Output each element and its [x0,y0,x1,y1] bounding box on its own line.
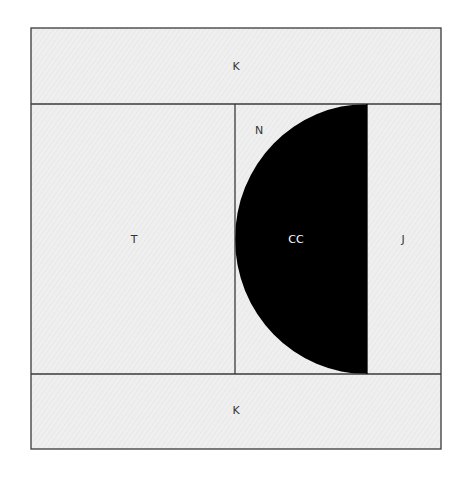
label-bottom: K [232,404,240,417]
label-left: T [130,233,138,246]
quilt-block-diagram: K T N CC J K [0,0,473,482]
label-middle-top: N [255,124,263,137]
label-right: J [400,233,404,246]
label-top: K [232,60,240,73]
label-half-circle: CC [288,233,304,246]
